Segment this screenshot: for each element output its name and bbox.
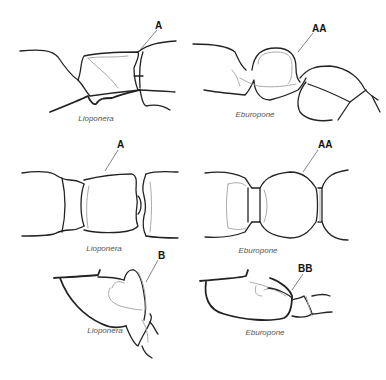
drawing-lioponera-dorsal [22,150,178,238]
caption-lioponera-top: Lioponera [78,114,114,123]
label-aa-mid: AA [318,139,332,150]
drawing-lioponera-b [54,260,158,358]
figure-drawings [0,0,386,380]
label-bb: BB [298,263,312,274]
drawing-eburopone-lateral [193,33,380,121]
drawing-lioponera-lateral [20,30,176,112]
caption-lioponera-bottom: Lioponera [87,326,123,335]
caption-eburopone-mid: Eburopone [238,246,277,255]
caption-lioponera-mid: Lioponera [86,244,122,253]
label-a-top: A [155,20,162,31]
caption-eburopone-bottom: Eburopone [245,328,284,337]
label-aa-top: AA [312,23,326,34]
label-b: B [158,250,165,261]
caption-eburopone-top: Eburopone [235,110,274,119]
label-a-mid: A [117,139,124,150]
drawing-eburopone-dorsal [205,150,348,240]
drawing-eburopone-bb [200,270,332,320]
